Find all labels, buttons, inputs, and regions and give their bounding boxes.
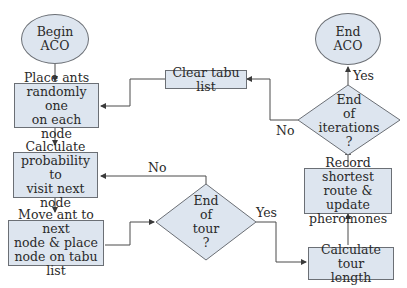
begin-aco-node: BeginACO <box>21 14 89 64</box>
node-text: route & update <box>305 184 391 212</box>
tour-yes-label: Yes <box>256 206 277 220</box>
node-text: iterations <box>319 121 380 135</box>
tour-no-label: No <box>148 161 166 175</box>
iterations-no-label: No <box>276 124 294 138</box>
node-text: tour <box>193 222 220 236</box>
node-text: Move ant to next <box>9 208 103 236</box>
node-text: Place ants <box>15 71 98 85</box>
clear-tabu-list-node: Clear tabu list <box>165 70 247 89</box>
node-text: Calculate tour <box>309 243 393 271</box>
calculate-probability-node: Calculateprobability tovisit next node <box>13 152 98 198</box>
node-text: visit next node <box>14 182 97 210</box>
node-text: End <box>334 25 363 39</box>
node-text: node on tabu list <box>9 250 103 278</box>
node-text: ACO <box>334 39 363 53</box>
record-shortest-route-node: Record shortestroute & updatepheromones <box>304 168 392 214</box>
node-text: ? <box>193 236 220 250</box>
node-text: End <box>193 194 220 208</box>
node-text: ? <box>319 135 380 149</box>
node-text: Record shortest <box>305 156 391 184</box>
node-text: pheromones <box>305 212 391 226</box>
end-of-iterations-text: Endofiterations? <box>313 92 385 150</box>
node-text: node & place <box>9 236 103 250</box>
node-text: length <box>309 271 393 285</box>
calculate-tour-length-node: Calculate tourlength <box>308 247 394 280</box>
place-ants-node: Place antsrandomly oneon each node <box>14 83 99 128</box>
node-text: of <box>319 107 380 121</box>
node-text: of <box>193 208 220 222</box>
node-text: End <box>319 93 380 107</box>
node-text: probability to <box>14 154 97 182</box>
node-text: Clear tabu list <box>166 66 246 94</box>
move-ant-node: Move ant to nextnode & placenode on tabu… <box>8 220 104 266</box>
node-text: ACO <box>37 39 74 53</box>
node-text: randomly one <box>15 85 98 113</box>
node-text: on each node <box>15 113 98 141</box>
node-text: Begin <box>37 25 74 39</box>
iterations-yes-label: Yes <box>353 69 374 83</box>
end-aco-node: EndACO <box>315 13 381 65</box>
end-of-tour-text: Endoftour? <box>176 194 236 250</box>
node-text: Calculate <box>14 140 97 154</box>
